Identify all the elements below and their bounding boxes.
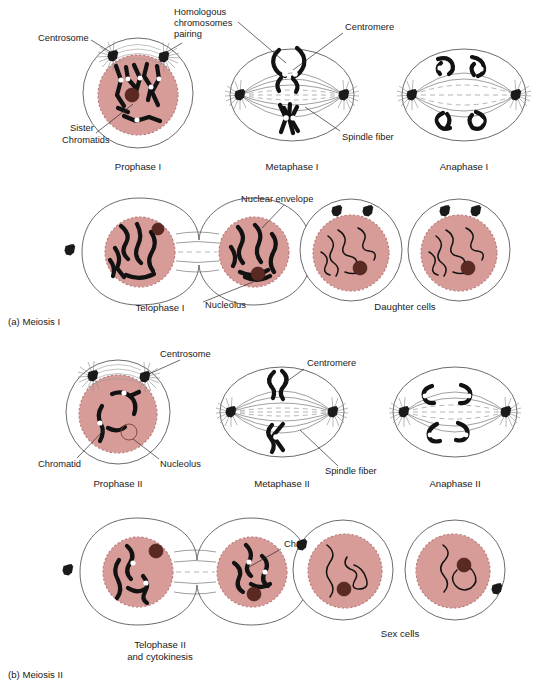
callout-homologous-line1: Homologous xyxy=(174,7,227,17)
centrosome-far-left xyxy=(65,244,76,256)
callout-nucleolus-2: Nucleolus xyxy=(160,459,201,469)
stage-label-telophase-1: Telophase I xyxy=(135,302,184,313)
stage-label-prophase-2: Prophase II xyxy=(93,478,142,489)
nucleolus-left xyxy=(149,544,163,558)
callout-sister-line1: Sister xyxy=(70,123,94,133)
stage-prophase-2: Centrosome Chromatid Nucleolus Prophase … xyxy=(38,349,211,489)
section-label-meiosis-1: (a) Meiosis I xyxy=(8,316,60,327)
leader-centrosome-2 xyxy=(149,360,180,374)
stage-label-metaphase-1: Metaphase I xyxy=(266,161,319,172)
stage-label-telophase-2-line2: and cytokinesis xyxy=(127,651,193,662)
stage-daughter-cells: Daughter cells xyxy=(300,199,510,312)
stage-label-metaphase-2: Metaphase II xyxy=(254,478,309,489)
stage-label-telophase-2: Telophase II xyxy=(134,639,186,650)
stage-metaphase-2: Centromere Spindle fiber Metaphase II xyxy=(216,358,377,489)
nucleus xyxy=(79,375,157,453)
callout-nuclear-envelope: Nuclear envelope xyxy=(241,194,313,204)
nucleolus xyxy=(461,261,475,275)
nucleus xyxy=(308,534,382,608)
nucleolus-right xyxy=(251,267,265,281)
cell-membrane xyxy=(402,49,526,141)
nucleolus xyxy=(457,558,471,572)
stage-sex-cells: Sex cells xyxy=(293,520,505,639)
meiosis-figure: Centrosome Homologous chromosomes pairin… xyxy=(0,0,542,689)
section-label-meiosis-2: (b) Meiosis II xyxy=(8,669,63,680)
nucleolus xyxy=(353,261,367,275)
nucleus xyxy=(416,534,490,608)
callout-homologous-line2: chromosomes xyxy=(174,18,233,28)
centrosome-far-left xyxy=(63,564,74,576)
nucleolus-right xyxy=(247,587,261,601)
stage-label-anaphase-1: Anaphase I xyxy=(440,161,489,172)
callout-centromere-1: Centromere xyxy=(345,22,394,32)
daughter-cell-right xyxy=(408,199,510,301)
nucleolus-left xyxy=(152,223,164,235)
stage-label-prophase-1: Prophase I xyxy=(115,161,161,172)
callout-homologous-line3: pairing xyxy=(174,29,202,39)
callout-sister-line2: Chromatids xyxy=(62,135,110,145)
stage-label-anaphase-2: Anaphase II xyxy=(429,478,480,489)
callout-centromere-2: Centromere xyxy=(307,358,356,368)
stage-label-sex-cells: Sex cells xyxy=(381,628,420,639)
callout-chromatid: Chromatid xyxy=(38,459,81,469)
callout-nucleolus-1: Nucleolus xyxy=(205,300,246,310)
callout-centrosome-1: Centrosome xyxy=(38,33,89,43)
daughter-cell-left xyxy=(300,199,402,301)
stage-label-daughter-cells: Daughter cells xyxy=(374,301,436,312)
nucleolus xyxy=(125,88,139,102)
stage-telophase-1: Nuclear envelope Nucleolus Telophase I xyxy=(65,194,330,313)
sex-cell-right xyxy=(405,520,505,620)
callout-spindle-fiber-2: Spindle fiber xyxy=(325,466,377,476)
nucleus xyxy=(421,215,497,291)
stage-anaphase-2: Anaphase II xyxy=(389,367,521,489)
stage-metaphase-1: Centromere Spindle fiber Metaphase I xyxy=(225,22,394,172)
stage-prophase-1: Centrosome Homologous chromosomes pairin… xyxy=(38,7,233,172)
callout-spindle-fiber-1: Spindle fiber xyxy=(342,132,394,142)
callout-centrosome-2: Centrosome xyxy=(160,349,211,359)
sex-cell-left xyxy=(293,520,393,620)
nucleolus xyxy=(337,582,351,596)
nucleus xyxy=(313,215,389,291)
stage-anaphase-1: Anaphase I xyxy=(397,49,531,172)
